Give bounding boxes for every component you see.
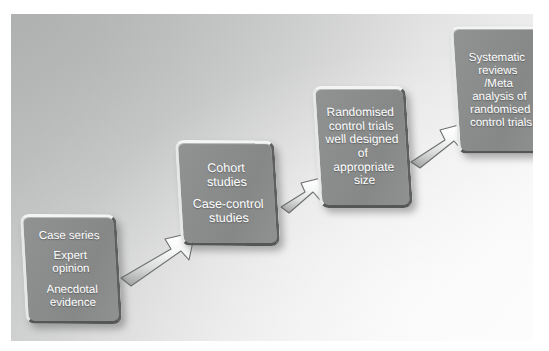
- case-series-node: Case series Expert opinion Anecdotal evi…: [20, 214, 122, 324]
- node-1-line-5: evidence: [49, 296, 96, 309]
- node-2-line-3: Case-control: [192, 196, 264, 210]
- node-4-line-5: randomised: [470, 103, 531, 116]
- node-3-line-6: size: [354, 174, 376, 188]
- cohort-studies-node: Cohort studies Case-control studies: [175, 140, 280, 246]
- node-4-line-2: reviews: [478, 64, 518, 77]
- randomised-control-trials-node: Randomised control trials well designed …: [312, 86, 413, 208]
- node-3-line-1: Randomised: [326, 106, 394, 120]
- node-4-line-4: analysis of: [472, 90, 527, 103]
- node-4-line-3: /Meta: [484, 77, 514, 90]
- node-1-line-3: opinion: [52, 262, 90, 275]
- node-1-line-4: Anecdotal: [46, 282, 98, 295]
- node-3-line-3: well designed: [325, 133, 399, 147]
- node-1-line-1: Case series: [38, 229, 100, 242]
- node-3-line-4: of: [357, 147, 368, 161]
- node-3-line-2: control trials: [328, 120, 394, 134]
- node-1-line-2: Expert: [53, 249, 87, 262]
- screenshot-root: Case series Expert opinion Anecdotal evi…: [0, 0, 549, 351]
- diagram-canvas: Case series Expert opinion Anecdotal evi…: [11, 14, 533, 341]
- node-2-line-2: studies: [207, 175, 248, 189]
- node-2-line-4: studies: [209, 211, 250, 225]
- node-3-line-5: appropriate: [333, 161, 395, 175]
- node-4-line-1: Systematic: [468, 51, 525, 64]
- node-4-line-6: control trials: [470, 116, 533, 129]
- systematic-reviews-node: Systematic reviews /Meta analysis of ran…: [450, 26, 533, 154]
- node-2-line-1: Cohort: [207, 161, 245, 175]
